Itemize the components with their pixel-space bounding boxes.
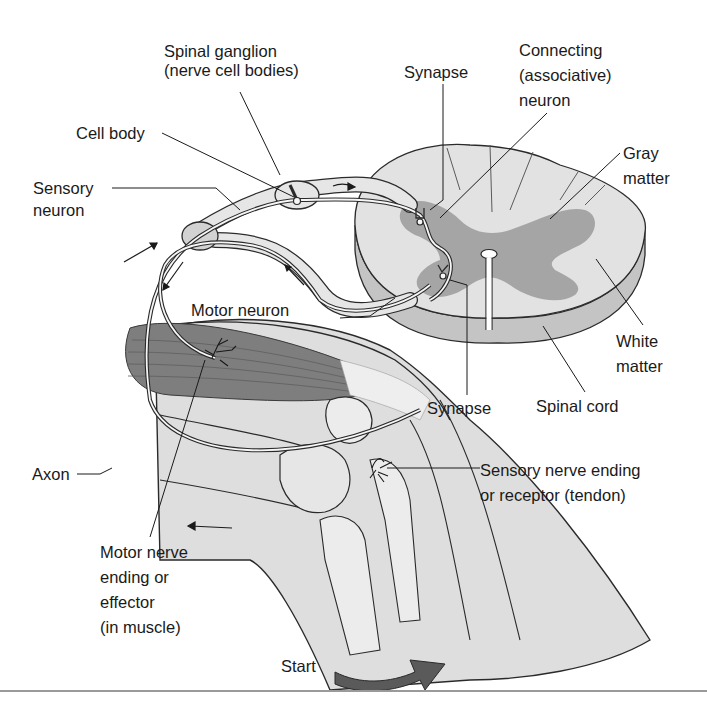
label-start: Start xyxy=(281,657,316,676)
label-gray-matter: Gray matter xyxy=(623,141,670,191)
label-spinal-cord: Spinal cord xyxy=(536,397,619,416)
spinal-cord-cross-section xyxy=(355,144,646,343)
label-motor-neuron: Motor neuron xyxy=(191,301,289,320)
label-synapse-top: Synapse xyxy=(404,63,468,82)
label-sensory-neuron: Sensory neuron xyxy=(33,177,94,221)
label-spinal-ganglion: Spinal ganglion (nerve cell bodies) xyxy=(164,42,299,80)
bottom-divider xyxy=(0,690,707,692)
label-cell-body: Cell body xyxy=(76,124,145,143)
label-white-matter: White matter xyxy=(616,329,663,379)
label-sensory-nerve-ending: Sensory nerve ending or receptor (tendon… xyxy=(480,458,641,508)
label-axon: Axon xyxy=(32,465,70,484)
label-synapse-bottom: Synapse xyxy=(427,399,491,418)
label-connecting-neuron: Connecting (associative) neuron xyxy=(519,38,612,113)
label-motor-nerve-ending: Motor nerve ending or effector (in muscl… xyxy=(100,540,188,640)
